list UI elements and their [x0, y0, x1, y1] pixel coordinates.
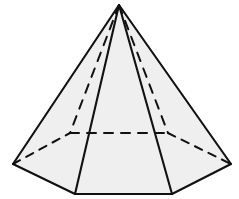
figure-canvas — [0, 0, 239, 199]
visible-faces-group — [13, 5, 231, 194]
heptagonal-pyramid-drawing — [0, 0, 239, 199]
